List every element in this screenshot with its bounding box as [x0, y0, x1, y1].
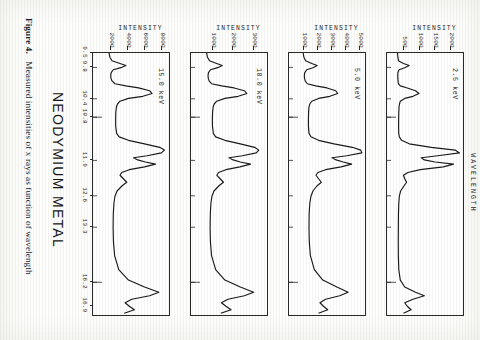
energy-label-panel-2: 5.0 keV [353, 68, 360, 100]
x-tick-mark [90, 52, 93, 53]
caption-text: Measured intensities of x rays as functi… [24, 61, 34, 274]
y-axis-ticks-panel-1: 500100015002000 [388, 16, 464, 50]
x-axis-label-wavelength: WAVELENGTH [469, 52, 476, 314]
x-tick-label: 13.3 [81, 219, 88, 234]
y-tick-mark [212, 46, 213, 50]
scanned-figure-page: INTENSITY 500100015002000 2.5 keV INTENS… [0, 0, 480, 340]
spectrum-panel-2p5kev: INTENSITY 500100015002000 2.5 keV [370, 16, 466, 324]
y-tick-mark [303, 46, 304, 50]
y-axis-ticks-panel-2: 10002000300040005000 [290, 16, 366, 50]
y-axis-ticks-panel-4: 2000400060008000 [94, 16, 170, 50]
caption-label: Figure 4. [24, 18, 34, 54]
y-tick-label: 1000 [301, 32, 308, 48]
x-tick-label: 16.9 [81, 297, 88, 312]
x-tick-mark [90, 159, 93, 160]
y-tick-label: 5000 [357, 32, 364, 48]
y-tick-label: 6000 [141, 32, 148, 48]
y-tick-label: 3000 [329, 32, 336, 48]
y-tick-mark [127, 46, 128, 50]
spectra-panel-stack: INTENSITY 500100015002000 2.5 keV INTENS… [74, 16, 466, 324]
x-tick-label: 9.5 [81, 46, 88, 57]
y-tick-label: 1500 [432, 32, 439, 48]
energy-label-panel-3: 10.0 keV [255, 68, 262, 104]
figure-title: NEODYMIUM METAL [50, 0, 66, 340]
y-tick-mark [317, 46, 318, 50]
y-tick-label: 1000 [209, 32, 216, 48]
y-tick-label: 4000 [124, 32, 131, 48]
y-tick-mark [435, 46, 436, 50]
y-tick-mark [359, 46, 360, 50]
x-tick-mark [90, 98, 93, 99]
x-tick-mark [90, 305, 93, 306]
y-tick-mark [403, 46, 404, 50]
y-axis-ticks-panel-3: 100020003000 [192, 16, 268, 50]
y-tick-mark [450, 46, 451, 50]
y-tick-label: 500 [400, 36, 407, 48]
x-tick-mark [90, 281, 93, 282]
spectrum-panel-5kev: INTENSITY 10002000300040005000 5.0 keV [272, 16, 368, 324]
y-tick-label: 2000 [315, 32, 322, 48]
x-tick-label: 9.8 [81, 61, 88, 72]
y-tick-mark [232, 46, 233, 50]
x-tick-mark [90, 195, 93, 196]
y-tick-label: 2000 [107, 32, 114, 48]
energy-label-panel-1: 2.5 keV [451, 68, 458, 100]
spectrum-panel-15kev: INTENSITY 2000400060008000 15.0 keV 9.59… [76, 16, 172, 324]
x-tick-mark [90, 116, 93, 117]
panel-1-ticks [387, 67, 396, 282]
y-tick-mark [331, 46, 332, 50]
y-tick-label: 2000 [230, 32, 237, 48]
panel-3-trace [207, 53, 259, 313]
spectrum-panel-10kev: INTENSITY 100020003000 10.0 keV [174, 16, 270, 324]
y-tick-mark [419, 46, 420, 50]
panel-4-ticks [93, 67, 102, 282]
y-tick-mark [253, 46, 254, 50]
panel-2-ticks [289, 67, 298, 282]
y-tick-label: 3000 [250, 32, 257, 48]
x-tick-mark [90, 226, 93, 227]
x-tick-mark [90, 66, 93, 67]
x-tick-label: 16.2 [81, 274, 88, 289]
panel-3-ticks [191, 67, 200, 282]
y-tick-label: 1000 [416, 32, 423, 48]
x-tick-label: 10.4 [81, 90, 88, 105]
y-tick-label: 8000 [158, 32, 165, 48]
figure-caption: Figure 4. Measured intensities of x rays… [24, 18, 34, 324]
y-tick-label: 4000 [343, 32, 350, 48]
energy-label-panel-4: 15.0 keV [157, 68, 164, 104]
y-tick-mark [144, 46, 145, 50]
x-tick-label: 10.8 [81, 109, 88, 124]
x-tick-label: 11.9 [81, 152, 88, 167]
y-tick-label: 2000 [448, 32, 455, 48]
y-tick-mark [345, 46, 346, 50]
y-tick-mark [161, 46, 162, 50]
x-axis-ticks: 9.59.810.410.811.912.613.316.216.9 [77, 52, 93, 314]
x-tick-label: 12.6 [81, 187, 88, 202]
y-tick-mark [110, 46, 111, 50]
